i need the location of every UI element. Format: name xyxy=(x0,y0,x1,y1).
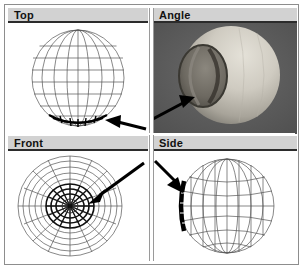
viewport-front-label-band: Front xyxy=(8,136,148,151)
viewport-angle-label: Angle xyxy=(159,9,191,21)
side-wireframe-sphere xyxy=(153,151,297,262)
top-wireframe-sphere xyxy=(8,23,148,134)
viewport-side-label-band: Side xyxy=(153,136,297,151)
front-polar-wireframe xyxy=(8,151,148,262)
viewport-front[interactable]: Front xyxy=(8,136,148,262)
viewport-top-canvas[interactable] xyxy=(8,23,148,134)
app-window: Top xyxy=(0,0,303,269)
viewport-side[interactable]: Side xyxy=(153,136,297,262)
viewport-top-label: Top xyxy=(14,9,34,21)
viewport-grid: Top xyxy=(5,5,298,264)
viewport-front-canvas[interactable] xyxy=(8,151,148,262)
viewport-side-label: Side xyxy=(159,137,183,149)
annotation-arrow-side-view xyxy=(155,161,183,193)
viewport-top-label-band: Top xyxy=(8,8,148,23)
viewport-front-label: Front xyxy=(14,137,43,149)
viewport-angle-canvas[interactable] xyxy=(153,23,297,134)
viewport-top[interactable]: Top xyxy=(8,8,148,134)
viewport-side-canvas[interactable] xyxy=(153,151,297,262)
viewport-horizontal-divider[interactable] xyxy=(8,133,295,135)
window-frame: Top xyxy=(4,4,299,265)
viewport-angle[interactable]: Angle xyxy=(153,8,297,134)
angle-shaded-sphere xyxy=(153,23,297,134)
annotation-arrow-top-view xyxy=(105,115,146,129)
viewport-angle-label-band: Angle xyxy=(153,8,297,23)
